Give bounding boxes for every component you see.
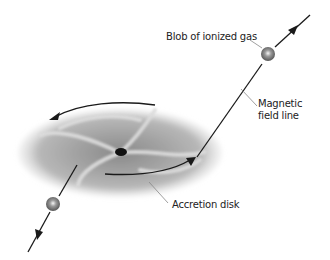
- label-blob: Blob of ionized gas: [166, 31, 257, 43]
- label-disk: Accretion disk: [172, 199, 239, 211]
- label-field-line-2: field line: [258, 110, 299, 122]
- accretion-disk: [18, 109, 222, 197]
- leader-field-line: [241, 89, 257, 106]
- accretion-disk-diagram: [0, 0, 330, 260]
- ionized-gas-blob-lower: [46, 197, 60, 211]
- label-field-line-1: Magnetic: [258, 98, 302, 110]
- ionized-gas-blob-upper: [261, 47, 275, 61]
